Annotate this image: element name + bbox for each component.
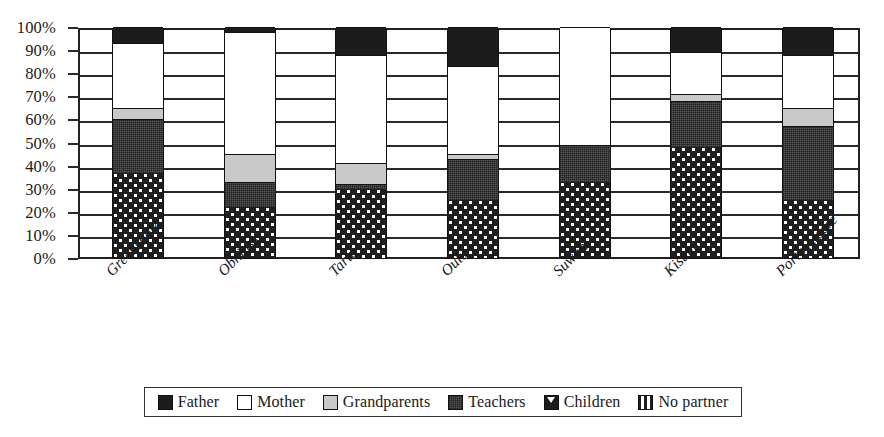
y-axis-tick-label: 90% — [25, 41, 56, 61]
bar-segment-mother — [560, 27, 610, 145]
white-square-icon — [237, 395, 252, 410]
stacked-bar — [335, 28, 387, 259]
bar-segment-mother — [671, 52, 721, 94]
y-axis-tick-mark — [68, 189, 78, 191]
y-axis-tick-mark — [68, 166, 78, 168]
legend-item: Teachers — [439, 393, 534, 411]
stacked-bar — [224, 28, 276, 259]
y-axis-tick-mark — [68, 73, 78, 75]
bar-segment-mother — [113, 43, 163, 108]
bar-segment-teachers — [560, 145, 610, 182]
legend-label: Teachers — [468, 393, 525, 411]
y-axis-tick-mark — [68, 143, 78, 145]
y-axis-tick-label: 50% — [25, 134, 56, 154]
legend-item: Mother — [228, 393, 314, 411]
legend-item: Children — [535, 393, 630, 411]
bar-segment-grandparents — [336, 163, 386, 184]
legend-label: Father — [178, 393, 219, 411]
y-axis: 100%90%80%70%60%50%40%30%20%10%0% — [0, 0, 76, 290]
y-axis-tick-mark — [68, 27, 78, 29]
bar-segment-grandparents — [783, 108, 833, 126]
bar-group — [335, 28, 387, 259]
bar-segment-teachers — [225, 182, 275, 207]
bar-segment-mother — [336, 55, 386, 164]
striped-square-icon — [638, 395, 653, 410]
triangle-pattern-square-icon — [544, 395, 559, 410]
light-gray-square-icon — [323, 395, 338, 410]
bar-segment-mother — [448, 66, 498, 154]
bar-group — [447, 28, 499, 259]
y-axis-tick-mark — [68, 119, 78, 121]
legend-item: Grandparents — [314, 393, 439, 411]
black-square-icon — [158, 395, 173, 410]
stacked-bar — [670, 28, 722, 259]
y-axis-tick-label: 60% — [25, 110, 56, 130]
y-axis-tick-label: 20% — [25, 203, 56, 223]
x-axis-labels: GreensboroObninskTartuOuluSuwonKisumuPor… — [78, 259, 860, 369]
bar-segment-teachers — [113, 119, 163, 172]
bar-segment-teachers — [671, 101, 721, 147]
legend-label: No partner — [658, 393, 728, 411]
bar-segment-grandparents — [448, 154, 498, 159]
bar-group — [559, 28, 611, 259]
y-axis-tick-label: 70% — [25, 87, 56, 107]
y-axis-tick-label: 10% — [25, 226, 56, 246]
bar-segment-grandparents — [113, 108, 163, 120]
bar-group — [670, 28, 722, 259]
stacked-bar-chart: 100%90%80%70%60%50%40%30%20%10%0% Greens… — [0, 0, 884, 437]
y-axis-tick-label: 80% — [25, 64, 56, 84]
dark-gray-square-icon — [448, 395, 463, 410]
legend-item: No partner — [629, 393, 737, 411]
y-axis-tick-mark — [68, 258, 78, 260]
bar-segment-father — [448, 27, 498, 66]
bar-segment-mother — [783, 55, 833, 108]
y-axis-tick-mark — [68, 96, 78, 98]
bar-segment-father — [225, 27, 275, 32]
y-axis-tick-mark — [68, 50, 78, 52]
bar-segment-grandparents — [225, 154, 275, 182]
bar-segment-father — [671, 27, 721, 52]
stacked-bar — [447, 28, 499, 259]
legend-label: Mother — [257, 393, 305, 411]
y-axis-tick-label: 40% — [25, 157, 56, 177]
stacked-bar — [559, 28, 611, 259]
y-axis-tick-label: 30% — [25, 180, 56, 200]
legend-item: Father — [149, 393, 228, 411]
bars-layer — [78, 28, 860, 259]
bar-segment-father — [336, 27, 386, 55]
bar-segment-father — [783, 27, 833, 55]
bar-segment-teachers — [336, 184, 386, 189]
bar-segment-father — [113, 27, 163, 43]
y-axis-tick-mark — [68, 235, 78, 237]
bar-segment-grandparents — [671, 94, 721, 101]
chart-legend: FatherMotherGrandparentsTeachersChildren… — [144, 387, 742, 417]
y-axis-tick-label: 100% — [17, 18, 56, 38]
bar-segment-mother — [225, 32, 275, 154]
y-axis-tick-mark — [68, 212, 78, 214]
y-axis-tick-label: 0% — [34, 249, 56, 269]
bar-group — [224, 28, 276, 259]
bar-segment-teachers — [783, 126, 833, 200]
legend-label: Grandparents — [343, 393, 430, 411]
bar-segment-teachers — [448, 159, 498, 201]
legend-label: Children — [564, 393, 621, 411]
